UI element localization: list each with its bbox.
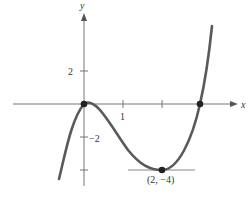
chart: x y 1 2 −2 (2, −4) <box>0 0 249 199</box>
x-axis-label: x <box>240 99 246 110</box>
y-axis-arrow-icon <box>81 13 87 21</box>
y-tick-label-2: 2 <box>68 66 73 77</box>
minimum-point <box>159 167 166 174</box>
y-tick-label-neg2: −2 <box>89 133 100 144</box>
x-axis-arrow-icon <box>230 101 238 107</box>
y-axis-label: y <box>79 0 85 11</box>
minimum-point-label: (2, −4) <box>147 174 174 186</box>
zero-point-3 <box>197 101 204 108</box>
origin-point <box>81 101 88 108</box>
x-tick-label-1: 1 <box>120 111 125 122</box>
